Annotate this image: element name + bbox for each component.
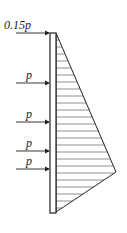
- load-diagram: 0.15ppppp: [0, 0, 127, 233]
- load-label: p: [25, 154, 32, 168]
- load-arrow: p: [16, 136, 49, 151]
- load-label: 0.15p: [4, 18, 31, 32]
- load-arrow: p: [16, 107, 49, 122]
- load-arrow: 0.15p: [4, 18, 49, 33]
- load-label: p: [25, 68, 32, 82]
- pressure-distribution: [56, 33, 116, 212]
- load-arrow: p: [16, 68, 49, 83]
- load-arrow: p: [16, 154, 49, 169]
- wall: [50, 33, 56, 213]
- load-label: p: [25, 107, 32, 121]
- load-label: p: [25, 136, 32, 150]
- load-arrows: 0.15ppppp: [4, 18, 49, 169]
